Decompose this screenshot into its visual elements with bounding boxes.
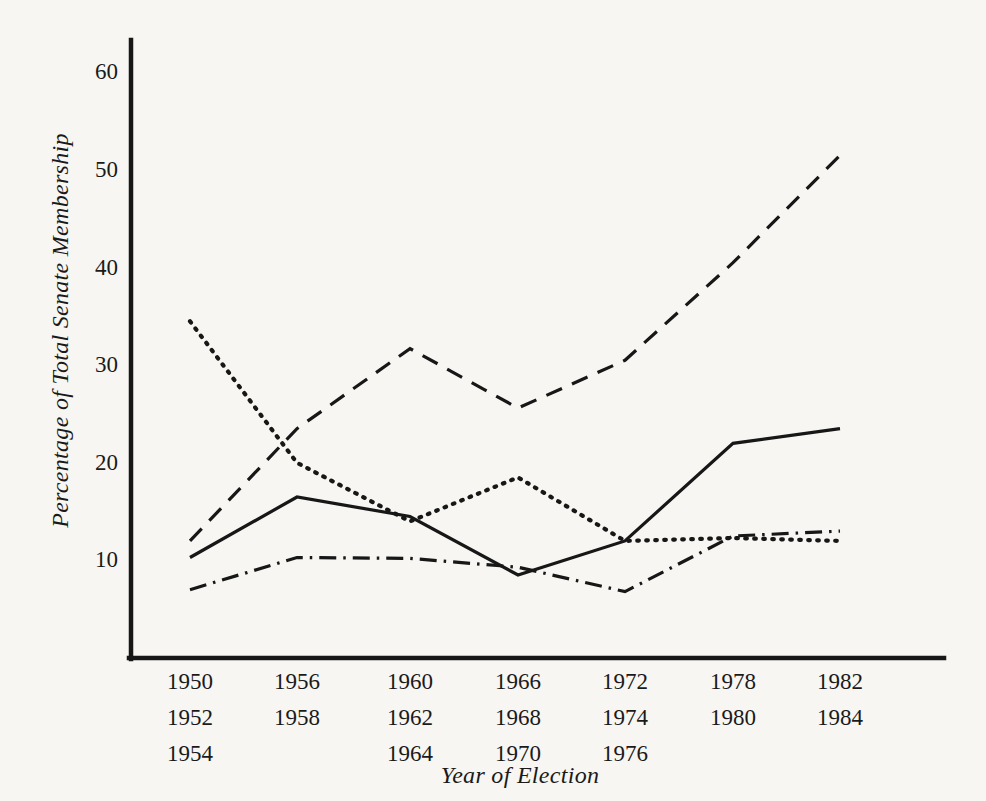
x-group-1: 195619580000 [237, 664, 357, 772]
x-year-label-1984: 1984 [780, 700, 900, 736]
x-year-label-1968: 1968 [458, 700, 578, 736]
x-year-label-1962: 1962 [350, 700, 470, 736]
x-year-label-1958: 1958 [237, 700, 357, 736]
x-year-label-1980: 1980 [673, 700, 793, 736]
line-dotted-series [190, 321, 840, 541]
axis-lines [129, 40, 944, 659]
data-series-group [190, 155, 840, 591]
x-year-label-1952: 1952 [130, 700, 250, 736]
x-group-0: 195019521954 [130, 664, 250, 772]
x-axis-label: Year of Election [441, 762, 600, 789]
x-group-6: 198219840000 [780, 664, 900, 772]
x-year-label-1978: 1978 [673, 664, 793, 700]
x-axis-year-groups: 1950195219541956195800001960196219641966… [0, 664, 986, 764]
x-year-label-1982: 1982 [780, 664, 900, 700]
x-year-label-1960: 1960 [350, 664, 470, 700]
x-year-label-1972: 1972 [565, 664, 685, 700]
x-year-label-1966: 1966 [458, 664, 578, 700]
line-dashed-series [190, 155, 840, 541]
x-group-4: 197219741976 [565, 664, 685, 772]
x-year-label-1956: 1956 [237, 664, 357, 700]
x-year-label-1950: 1950 [130, 664, 250, 700]
x-year-label-1974: 1974 [565, 700, 685, 736]
x-group-3: 196619681970 [458, 664, 578, 772]
chart-figure: Percentage of Total Senate Membership 10… [0, 0, 986, 801]
line-dashdot-series [190, 531, 840, 592]
x-axis-label-container: Year of Election [0, 762, 986, 789]
x-group-2: 196019621964 [350, 664, 470, 772]
x-group-5: 197819800000 [673, 664, 793, 772]
